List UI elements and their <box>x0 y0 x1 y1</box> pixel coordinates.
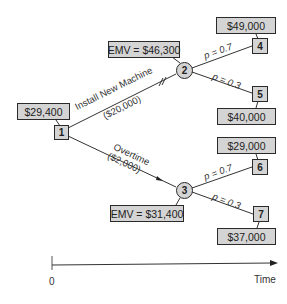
payoff-box-node-4: $49,000 <box>216 17 276 34</box>
axis-time-label: Time <box>254 274 276 285</box>
payoff-box-node-6: $29,000 <box>217 137 276 154</box>
end-node-4: 4 <box>252 38 268 54</box>
emv-box-node-2: EMV = $46,300 <box>108 41 180 58</box>
emv-box-node-3: EMV = $31,400 <box>110 205 184 222</box>
end-node-5: 5 <box>252 86 268 102</box>
end-node-7: 7 <box>253 206 269 222</box>
end-node-6: 6 <box>252 159 268 175</box>
chance-node-2: 2 <box>176 62 193 79</box>
payoff-box-node-7: $37,000 <box>217 228 276 245</box>
payoff-box-node-5: $40,000 <box>217 108 276 125</box>
axis-origin-label: 0 <box>49 276 55 287</box>
root-value-box: $29,400 <box>17 103 70 120</box>
decision-node-1: 1 <box>54 125 69 140</box>
chance-node-3: 3 <box>176 182 193 199</box>
